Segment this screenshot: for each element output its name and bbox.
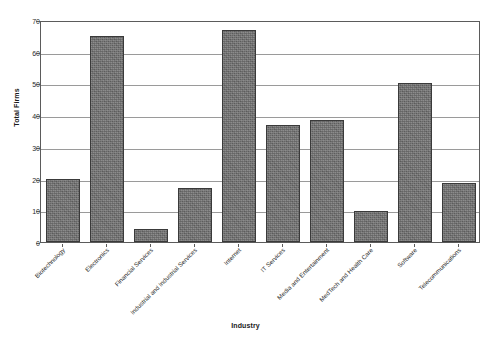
plot-area bbox=[40, 21, 480, 243]
x-tick-label: Financial Services bbox=[114, 247, 155, 288]
bars-series bbox=[41, 22, 479, 242]
x-tick-label: Software bbox=[396, 247, 418, 269]
bar bbox=[442, 183, 475, 242]
bar bbox=[46, 179, 79, 242]
bar bbox=[266, 125, 299, 242]
x-tick-label: Telecommunications bbox=[418, 247, 463, 292]
bar bbox=[222, 30, 255, 242]
bar bbox=[90, 36, 123, 242]
bar bbox=[398, 83, 431, 242]
bar bbox=[134, 229, 167, 242]
bar bbox=[310, 120, 343, 242]
x-axis-labels: BiotechnologyElectronicsFinancial Servic… bbox=[40, 244, 480, 316]
bar bbox=[354, 211, 387, 242]
y-axis: 010203040506070 bbox=[18, 21, 40, 243]
x-axis-title: Industry bbox=[0, 322, 491, 329]
y-axis-title: Total Firms bbox=[13, 78, 20, 138]
x-tick-label: Internet bbox=[223, 247, 243, 267]
bar-chart: 010203040506070 Total Firms Biotechnolog… bbox=[0, 0, 491, 345]
x-tick-label: Biotechnology bbox=[34, 247, 66, 279]
bar bbox=[178, 188, 211, 242]
x-tick-label: Electronics bbox=[84, 247, 110, 273]
x-tick-label: IT Services bbox=[260, 247, 287, 274]
x-tick-label: MedTech and Health Care bbox=[318, 247, 374, 303]
